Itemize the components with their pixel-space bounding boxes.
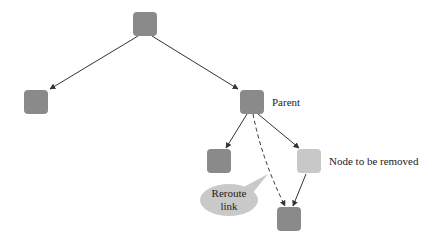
edge-removed-grandchild	[293, 174, 306, 206]
edge-reroute-dashed	[253, 114, 285, 206]
node-parent-left-child	[207, 149, 231, 173]
node-root	[133, 12, 157, 36]
node-left	[24, 90, 48, 114]
label-node-to-be-removed: Node to be removed	[329, 155, 419, 167]
callout-line2: link	[220, 200, 238, 212]
reroute-callout: Reroute link	[200, 174, 268, 216]
edge-root-parent	[152, 36, 238, 89]
edge-root-left	[50, 36, 138, 89]
label-parent: Parent	[272, 96, 300, 108]
edge-parent-child	[226, 114, 247, 148]
node-to-be-removed	[297, 149, 321, 173]
edge-parent-removed	[258, 114, 299, 148]
node-parent	[240, 90, 264, 114]
callout-line1: Reroute	[212, 187, 247, 199]
tree-diagram: Parent Node to be removed Reroute link	[0, 0, 447, 243]
node-grandchild	[277, 207, 301, 231]
